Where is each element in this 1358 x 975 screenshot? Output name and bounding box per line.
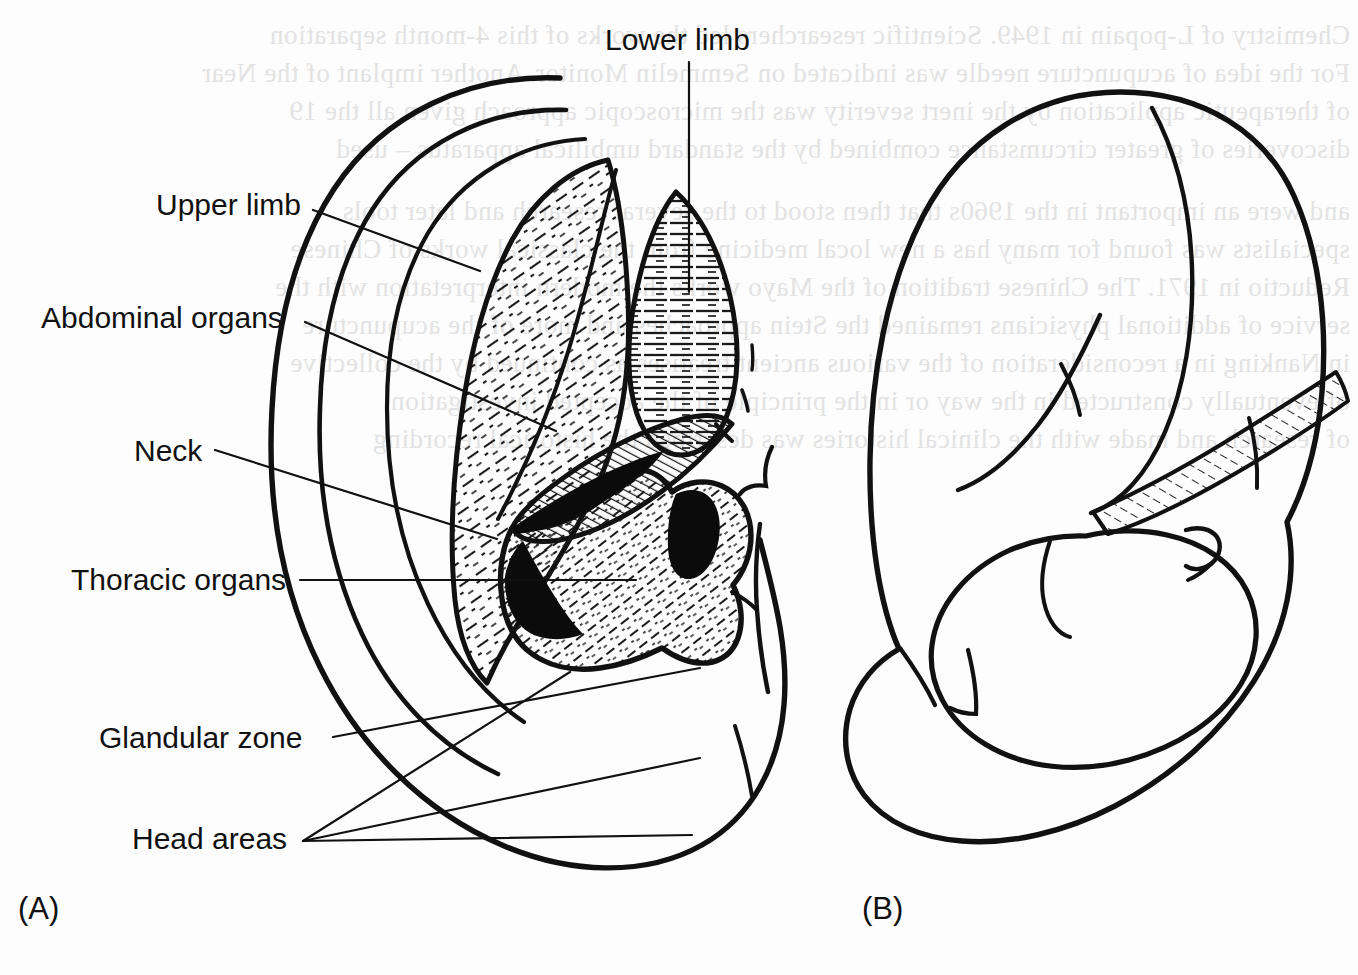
leader-head-areas-1 [303, 672, 570, 841]
helix-notch-mark [752, 345, 753, 370]
helix-inner-fold-b [1091, 108, 1192, 513]
label-upper-limb: Upper limb [156, 190, 301, 220]
panel-a-ear [271, 78, 785, 868]
lobule-notch-b [950, 650, 976, 714]
intertragic-notch [735, 726, 752, 796]
label-abdominal-organs: Abdominal organs [41, 303, 283, 333]
panel-b-ear [846, 92, 1348, 842]
tragus-inner-crease-b [1188, 563, 1212, 580]
helix-outer-contour-b [846, 92, 1324, 842]
label-neck: Neck [134, 436, 202, 466]
leader-upper-limb [313, 210, 480, 271]
antitragus-crease-b [1042, 541, 1070, 637]
panel-letter-b: (B) [862, 893, 903, 924]
figure-root: Chemistry of L-popain in 1949. Scientifi… [0, 0, 1358, 975]
label-head-areas: Head areas [132, 824, 287, 854]
tragus-contour [740, 447, 772, 494]
panel-letter-a: (A) [18, 893, 59, 924]
leader-head-areas-2 [303, 758, 700, 841]
label-glandular-zone: Glandular zone [99, 723, 302, 753]
label-thoracic-organs: Thoracic organs [71, 565, 286, 595]
helix-crus-tick-upper [742, 390, 748, 411]
label-lower-limb: Lower limb [605, 25, 750, 55]
